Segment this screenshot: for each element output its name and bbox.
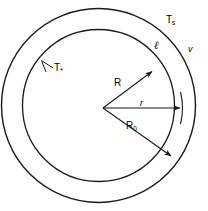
label-radius-outer: R0 — [126, 121, 137, 133]
label-temperature-inner-subscript: * — [60, 66, 63, 75]
label-phase-vapor: v — [188, 45, 193, 54]
label-temperature-outer-subscript: s — [172, 19, 175, 26]
label-radius-variable: r — [140, 99, 143, 108]
diagram-canvas — [0, 0, 208, 211]
figure-container: Ts ℓ v T* R r R0 — [0, 0, 208, 211]
label-temperature-outer: Ts — [166, 15, 175, 27]
label-temperature-inner: T* — [54, 63, 63, 75]
label-radius-inner: R — [114, 78, 121, 88]
inner-boundary-circle — [23, 30, 175, 182]
radius-r-terminator-arc — [181, 92, 183, 124]
label-radius-outer-subscript: 0 — [133, 125, 137, 132]
radius-R0-arrow — [103, 108, 171, 156]
outer-boundary-circle — [2, 9, 196, 203]
label-phase-liquid: ℓ — [154, 40, 159, 51]
radius-R-arrow — [103, 72, 152, 109]
